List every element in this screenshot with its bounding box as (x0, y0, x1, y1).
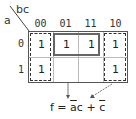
formula-term2-negated: c (99, 101, 105, 114)
boolean-formula: f = ac + c (50, 101, 105, 114)
group-dashed-c-bar-right (104, 33, 126, 81)
col-variable-label: bc (16, 3, 29, 16)
cell-1-11 (79, 57, 104, 83)
formula-plus: + (83, 101, 99, 114)
row-header-1: 1 (16, 64, 26, 75)
col-header-01: 01 (53, 18, 78, 29)
formula-lhs: f = (50, 101, 70, 114)
col-header-00: 00 (28, 18, 53, 29)
col-header-11: 11 (78, 18, 103, 29)
arrow-head-solid (66, 95, 70, 99)
arrow-head-dashed (90, 94, 95, 98)
cell-1-01 (54, 57, 79, 83)
group-dashed-c-bar-left (30, 33, 51, 81)
row-variable-label: a (4, 14, 11, 27)
group-solid-a-bar-c (53, 33, 100, 56)
arrow-line-dashed (93, 84, 112, 96)
formula-term1-negated: a (70, 101, 77, 114)
col-header-10: 10 (103, 18, 128, 29)
row-header-0: 0 (16, 38, 26, 49)
